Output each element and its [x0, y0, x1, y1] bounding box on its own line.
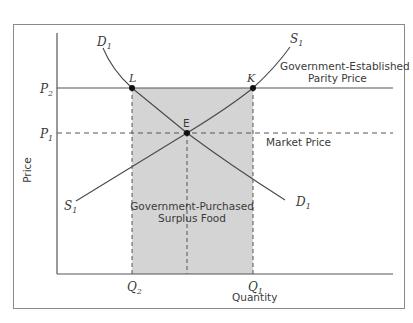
point-l-label: L — [128, 72, 136, 85]
surplus-annotation-line1: Government-Purchased — [130, 200, 254, 212]
point-k-label: K — [246, 72, 256, 85]
market-price-annotation: Market Price — [266, 136, 331, 148]
surplus-annotation-line2: Surplus Food — [158, 212, 226, 224]
surplus-region — [132, 88, 253, 274]
parity-price-annotation-line1: Government-Established — [280, 60, 410, 72]
x-axis-title: Quantity — [232, 291, 277, 303]
point-e — [184, 130, 190, 136]
point-k — [250, 85, 256, 91]
point-e-label: E — [183, 117, 190, 129]
price-support-diagram: L K E D1 S1 S1 D1 P2 P1 Q2 Q1 Price Quan… — [0, 0, 413, 323]
point-l — [129, 85, 135, 91]
parity-price-annotation-line2: Parity Price — [308, 72, 367, 84]
y-axis-title: Price — [21, 157, 33, 183]
